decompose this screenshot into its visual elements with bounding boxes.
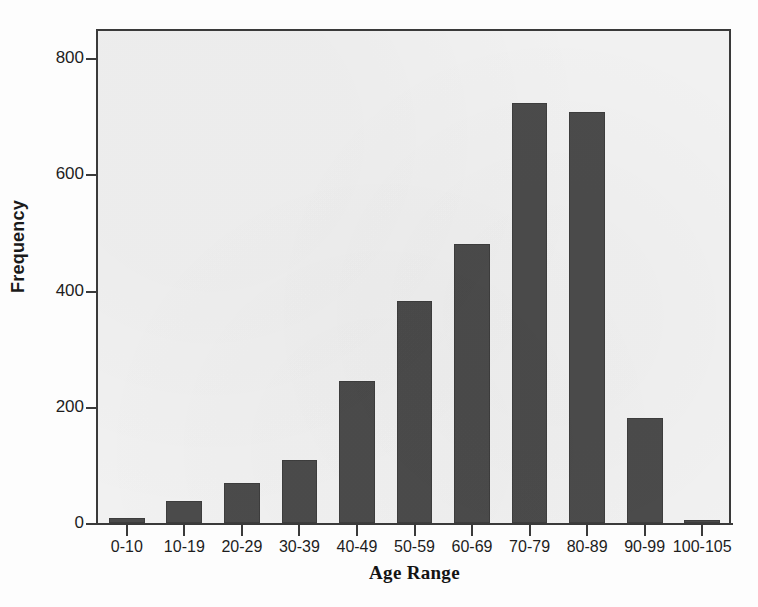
y-tick-label: 800 <box>14 49 98 66</box>
x-tick-mark <box>356 525 358 536</box>
bar-70-79[interactable] <box>512 103 548 523</box>
x-tick-label-30-39: 30-39 <box>279 538 320 556</box>
x-tick-label-0-10: 0-10 <box>111 538 143 556</box>
y-axis-title: Frequency <box>8 167 29 327</box>
bar-30-39[interactable] <box>282 460 318 523</box>
y-tick-label: 0 <box>14 514 98 531</box>
y-tick-label: 200 <box>14 398 98 415</box>
bar-60-69[interactable] <box>454 244 490 523</box>
x-tick-mark <box>644 525 646 536</box>
y-axis-line <box>96 29 98 525</box>
bar-10-19[interactable] <box>166 501 202 523</box>
x-tick-label-100-105: 100-105 <box>673 538 732 556</box>
x-axis-title: Age Range <box>98 562 731 584</box>
bar-90-99[interactable] <box>627 418 663 523</box>
histogram-figure: 0200400600800 0-1010-1920-2930-3940-4950… <box>0 0 758 607</box>
x-tick-mark <box>126 525 128 536</box>
x-tick-label-80-89: 80-89 <box>567 538 608 556</box>
bar-80-89[interactable] <box>569 112 605 523</box>
x-tick-mark <box>471 525 473 536</box>
x-tick-label-20-29: 20-29 <box>221 538 262 556</box>
x-tick-mark <box>298 525 300 536</box>
x-tick-label-60-69: 60-69 <box>452 538 493 556</box>
x-tick-label-50-59: 50-59 <box>394 538 435 556</box>
x-tick-label-40-49: 40-49 <box>336 538 377 556</box>
plot-area <box>98 29 731 523</box>
bar-20-29[interactable] <box>224 483 260 523</box>
x-tick-mark <box>701 525 703 536</box>
x-tick-mark <box>586 525 588 536</box>
bar-50-59[interactable] <box>397 301 433 523</box>
x-tick-label-70-79: 70-79 <box>509 538 550 556</box>
x-tick-label-90-99: 90-99 <box>624 538 665 556</box>
bar-40-49[interactable] <box>339 381 375 523</box>
x-tick-mark <box>414 525 416 536</box>
x-tick-mark <box>529 525 531 536</box>
x-tick-mark <box>183 525 185 536</box>
x-tick-label-10-19: 10-19 <box>164 538 205 556</box>
x-tick-mark <box>241 525 243 536</box>
